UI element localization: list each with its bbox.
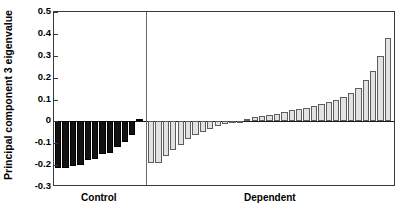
bar	[348, 93, 354, 121]
bar	[237, 121, 243, 123]
y-tick-mark	[54, 165, 58, 166]
chart-container: Principal component 3 eigenvalue 0.50.40…	[0, 0, 406, 210]
bar	[266, 115, 272, 122]
bar	[311, 106, 317, 121]
bar	[107, 121, 113, 153]
bar	[129, 121, 135, 135]
group-label-dependent: Dependent	[210, 192, 330, 204]
y-tick-mark	[54, 121, 58, 122]
bar	[303, 108, 309, 122]
y-tick-label: 0.1	[23, 94, 51, 104]
y-tick-label: -0.3	[23, 181, 51, 191]
bar	[155, 121, 161, 162]
bar	[192, 121, 198, 135]
bar	[207, 121, 213, 129]
y-axis-tick-labels: 0.50.40.30.20.10-0.1-0.2-0.3	[19, 0, 51, 210]
bar	[136, 119, 142, 122]
bar	[170, 121, 176, 150]
bar	[377, 56, 383, 122]
bar	[274, 114, 280, 122]
bar	[70, 121, 76, 166]
bar	[252, 117, 258, 121]
y-tick-label: 0.2	[23, 72, 51, 82]
bar	[148, 121, 154, 163]
y-axis-title: Principal component 3 eigenvalue	[0, 0, 16, 190]
bar	[385, 38, 391, 121]
group-label-control: Control	[39, 192, 159, 204]
bar	[77, 121, 83, 164]
bar	[296, 109, 302, 121]
y-tick-label: 0.3	[23, 50, 51, 60]
bar	[55, 121, 61, 168]
y-tick-mark	[54, 78, 58, 79]
bar	[114, 121, 120, 147]
bar	[92, 121, 98, 159]
y-tick-mark	[54, 56, 58, 57]
bar	[333, 100, 339, 121]
bar	[355, 88, 361, 121]
y-tick-mark	[54, 143, 58, 144]
y-tick-label: 0	[23, 115, 51, 125]
group-divider-line	[146, 12, 147, 185]
bar	[62, 121, 68, 167]
plot-area	[53, 11, 395, 186]
y-tick-mark	[54, 12, 58, 13]
y-tick-label: -0.2	[23, 159, 51, 169]
y-tick-label: 0.5	[23, 6, 51, 16]
bar	[281, 112, 287, 121]
bar	[326, 102, 332, 121]
bar	[318, 104, 324, 121]
bar	[163, 121, 169, 156]
bar	[229, 121, 235, 123]
bar	[259, 116, 265, 121]
bar	[185, 121, 191, 139]
bar	[200, 121, 206, 132]
bar	[222, 121, 228, 123]
bar	[122, 121, 128, 141]
bar	[340, 97, 346, 122]
bar	[363, 80, 369, 122]
bar	[370, 71, 376, 122]
bar	[178, 121, 184, 145]
bar	[99, 121, 105, 153]
bar	[244, 119, 250, 121]
y-tick-label: 0.4	[23, 28, 51, 38]
y-tick-label: -0.1	[23, 137, 51, 147]
y-tick-mark	[54, 34, 58, 35]
bar	[289, 110, 295, 121]
bar	[215, 121, 221, 126]
y-tick-mark	[54, 100, 58, 101]
bar	[85, 121, 91, 159]
